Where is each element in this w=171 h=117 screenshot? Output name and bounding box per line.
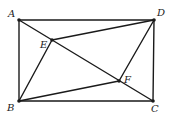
point-B — [17, 99, 21, 103]
label-C: C — [151, 103, 159, 114]
segment-FD — [119, 20, 154, 81]
label-F: F — [123, 74, 132, 85]
point-A — [17, 18, 21, 22]
segments — [19, 20, 154, 101]
label-D: D — [156, 7, 165, 18]
point-E — [50, 38, 54, 42]
label-A: A — [7, 8, 15, 19]
segment-BF — [19, 81, 119, 101]
point-D — [152, 18, 156, 22]
segment-DC — [153, 20, 154, 101]
label-B: B — [6, 102, 14, 113]
label-E: E — [39, 39, 48, 50]
segment-AC — [19, 20, 153, 101]
geometry-diagram: A B C D E F — [0, 0, 171, 117]
segment-ED — [52, 20, 154, 40]
point-F — [117, 79, 121, 83]
